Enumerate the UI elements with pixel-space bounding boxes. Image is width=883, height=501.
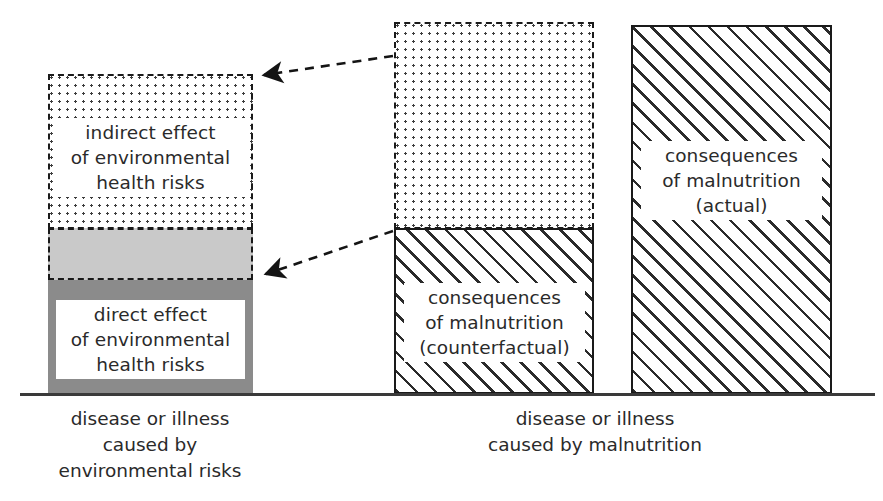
diagram-canvas: indirect effect of environmental health … bbox=[0, 0, 883, 501]
axis-label-left: disease or illness caused by environment… bbox=[14, 406, 286, 484]
label-counterfactual: consequences of malnutrition (counterfac… bbox=[404, 283, 585, 362]
label-actual: consequences of malnutrition (actual) bbox=[641, 141, 822, 220]
baseline-axis bbox=[20, 393, 875, 396]
top-connector-arrow bbox=[264, 56, 393, 75]
axis-label-right: disease or illness caused by malnutritio… bbox=[430, 406, 760, 458]
segment-light-band bbox=[48, 228, 253, 280]
label-direct-effect: direct effect of environmental health ri… bbox=[56, 300, 245, 379]
bottom-connector-arrow bbox=[266, 231, 393, 274]
label-indirect-effect: indirect effect of environmental health … bbox=[56, 118, 245, 197]
segment-counterfactual-gap bbox=[394, 22, 594, 229]
